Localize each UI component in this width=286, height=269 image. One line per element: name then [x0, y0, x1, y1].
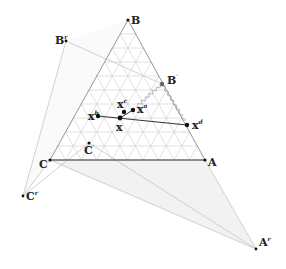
point-Bprime [160, 82, 164, 86]
simplex-diagram: B C A Br Cr Ar B′ C′ x xb xd xc xa [0, 0, 286, 269]
segment-xb-xd [98, 116, 187, 125]
grid-line [120, 34, 189, 160]
label-B: B [131, 14, 140, 27]
point-xa [131, 108, 135, 112]
label-C: C [39, 158, 48, 171]
point-C [48, 158, 51, 161]
grid-line [58, 146, 66, 160]
label-A: A [207, 156, 217, 169]
label-Cr: Cr [26, 189, 39, 203]
point-Cr [22, 195, 25, 198]
shaded-region [23, 20, 256, 249]
grid-line [128, 90, 167, 160]
grid-line [190, 146, 198, 160]
label-Bprime: B′ [167, 73, 178, 87]
point-A [203, 158, 206, 161]
label-x: x [116, 121, 123, 134]
point-Br [65, 40, 68, 43]
point-x [118, 116, 123, 121]
point-B [126, 18, 129, 21]
point-xd [185, 123, 189, 127]
label-xd: xd [192, 118, 204, 132]
point-Ar [255, 248, 258, 251]
label-Cprime: C′ [84, 143, 95, 157]
label-Ar: Ar [258, 235, 272, 249]
